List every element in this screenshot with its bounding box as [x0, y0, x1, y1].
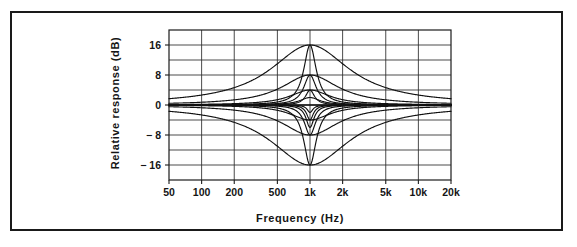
x-tick-label: 50 [163, 186, 175, 198]
x-tick-label: 2k [337, 186, 349, 198]
y-tick-label: 16 [149, 39, 161, 51]
tick-layer: 501002005001k2k5k10k20k1680− 8− 16 [140, 39, 460, 198]
x-tick-label: 5k [380, 186, 392, 198]
x-tick-label: 200 [225, 186, 243, 198]
x-tick-label: 10k [410, 186, 428, 198]
y-tick-label: 0 [155, 99, 161, 111]
x-axis-title: Frequency (Hz) [256, 212, 344, 224]
y-tick-label: − 16 [140, 159, 161, 171]
x-tick-label: 20k [442, 186, 460, 198]
x-tick-label: 500 [269, 186, 287, 198]
y-tick-label: − 8 [146, 129, 161, 141]
figure-root: 501002005001k2k5k10k20k1680− 8− 16 Frequ… [0, 0, 577, 247]
y-axis-title: Relative response (dB) [109, 37, 121, 169]
y-tick-label: 8 [155, 69, 161, 81]
eq-response-chart: 501002005001k2k5k10k20k1680− 8− 16 Frequ… [0, 0, 577, 247]
x-tick-label: 1k [304, 186, 316, 198]
x-tick-label: 100 [193, 186, 211, 198]
